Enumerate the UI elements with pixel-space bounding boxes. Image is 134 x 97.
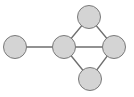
node-center bbox=[53, 36, 76, 59]
node-left bbox=[4, 36, 27, 59]
nodes-layer bbox=[4, 6, 126, 91]
node-bottom bbox=[79, 68, 102, 91]
graph-diagram bbox=[0, 0, 134, 97]
node-right bbox=[103, 36, 126, 59]
node-top bbox=[78, 6, 101, 29]
